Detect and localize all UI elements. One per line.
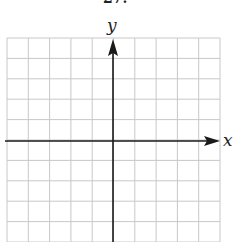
problem-number: 27.: [103, 0, 127, 5]
y-axis-label: y: [107, 17, 117, 34]
coordinate-grid: [0, 0, 234, 242]
coordinate-plane-figure: 27. x y: [0, 0, 234, 242]
x-axis-label: x: [223, 132, 233, 149]
